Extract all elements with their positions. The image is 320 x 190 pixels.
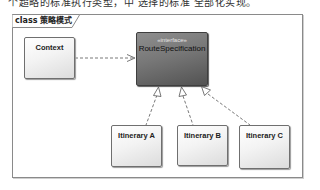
interface-route-specification[interactable]: «interface» RouteSpecification bbox=[136, 32, 208, 86]
interface-name: RouteSpecification bbox=[137, 44, 207, 53]
class-name: Itinerary A bbox=[112, 131, 161, 140]
hollow-triangle-icon bbox=[154, 87, 162, 97]
class-name: Context bbox=[25, 43, 74, 52]
hollow-triangle-icon bbox=[202, 87, 211, 96]
class-name: Itinerary B bbox=[178, 131, 227, 140]
realization-edge-c bbox=[208, 94, 250, 125]
realization-edge-b bbox=[183, 96, 193, 125]
class-itinerary-c[interactable]: Itinerary C bbox=[239, 125, 290, 169]
class-name: Itinerary C bbox=[240, 131, 289, 140]
class-itinerary-b[interactable]: Itinerary B bbox=[177, 125, 228, 166]
class-context[interactable]: Context bbox=[24, 37, 75, 79]
realization-edge-a bbox=[146, 95, 157, 125]
class-itinerary-a[interactable]: Itinerary A bbox=[111, 125, 162, 167]
hollow-triangle-icon bbox=[179, 87, 187, 97]
stereotype-label: «interface» bbox=[137, 37, 207, 43]
